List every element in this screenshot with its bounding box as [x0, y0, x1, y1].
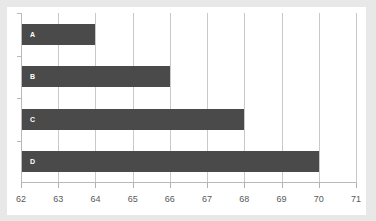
bar-series: ABCD — [21, 13, 356, 183]
x-axis-tick — [170, 183, 171, 188]
x-axis-tick — [356, 183, 357, 188]
bar-label: D — [30, 158, 35, 165]
x-axis-tick-label: 63 — [53, 192, 63, 206]
gridline — [356, 13, 357, 183]
plot-area: ABCD — [21, 13, 356, 183]
x-axis-tick-label: 65 — [128, 192, 138, 206]
x-axis-tick-label: 62 — [16, 192, 26, 206]
x-axis-tick-label: 67 — [202, 192, 212, 206]
x-axis-tick — [133, 183, 134, 188]
y-axis-line — [21, 13, 22, 183]
x-axis-tick — [21, 183, 22, 188]
bar-label: C — [30, 116, 35, 123]
x-axis-tick — [319, 183, 320, 188]
x-axis-tick-label: 64 — [90, 192, 100, 206]
x-axis-line — [21, 182, 356, 183]
x-axis-tick-labels: 62636465666768697071 — [21, 192, 356, 206]
x-axis-tick-label: 70 — [314, 192, 324, 206]
bar[interactable]: C — [21, 109, 244, 130]
chart-panel: ABCD 62636465666768697071 — [7, 7, 366, 215]
chart-page: ABCD 62636465666768697071 — [0, 0, 376, 221]
bar-label: A — [30, 31, 35, 38]
x-axis-tick — [58, 183, 59, 188]
x-axis-tick — [244, 183, 245, 188]
bar-label: B — [30, 73, 35, 80]
x-axis-tick — [282, 183, 283, 188]
x-axis-tick — [95, 183, 96, 188]
bar[interactable]: B — [21, 66, 170, 87]
bar[interactable]: D — [21, 151, 319, 172]
x-axis-tick-label: 68 — [239, 192, 249, 206]
x-axis-tick-label: 66 — [165, 192, 175, 206]
bar[interactable]: A — [21, 24, 95, 45]
x-axis-tick-label: 69 — [277, 192, 287, 206]
x-axis-tick-label: 71 — [351, 192, 361, 206]
x-axis-tick — [207, 183, 208, 188]
